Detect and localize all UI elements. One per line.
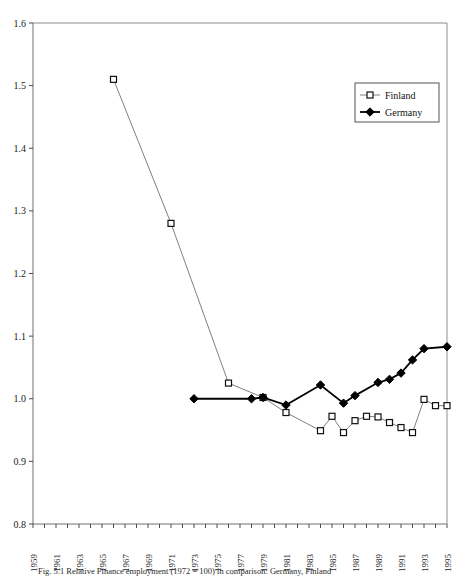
data-point-marker: [433, 403, 439, 409]
data-point-marker: [444, 403, 450, 409]
y-axis-tick-label: 1.1: [14, 331, 27, 342]
data-point-marker: [318, 428, 324, 434]
x-axis-ticks: 1959196119631965196719691971197319751977…: [29, 524, 453, 572]
y-axis-tick-label: 1.3: [14, 205, 27, 216]
data-point-marker: [341, 430, 347, 436]
data-point-marker: [375, 414, 381, 420]
data-point-marker: [282, 401, 290, 409]
chart-figure: 1.61.51.41.31.21.11.00.90.8 195919611963…: [0, 0, 465, 577]
figure-caption-text: Fig. 5.1 Relative Finance employment (19…: [38, 566, 332, 576]
data-point-marker: [421, 396, 427, 402]
data-point-marker: [374, 378, 382, 386]
y-axis-tick-label: 0.9: [14, 456, 27, 467]
series-line: [194, 347, 447, 405]
data-point-marker: [283, 410, 289, 416]
data-point-marker: [410, 430, 416, 436]
y-axis-tick-label: 1.6: [14, 18, 27, 29]
figure-caption: Fig. 5.1 Relative Finance employment (19…: [38, 566, 332, 576]
chart-legend: FinlandGermany: [355, 83, 439, 122]
x-axis-tick-label: 1991: [397, 554, 407, 572]
legend-item-germany: Germany: [360, 107, 422, 118]
legend-item-label: Germany: [385, 107, 422, 118]
series-finland: [111, 76, 451, 435]
y-axis-ticks: 1.61.51.41.31.21.11.00.90.8: [14, 18, 34, 530]
y-axis-tick-label: 1.0: [14, 393, 27, 404]
x-axis-tick-label: 1993: [420, 554, 430, 573]
data-point-marker: [247, 395, 255, 403]
line-chart-canvas: 1.61.51.41.31.21.11.00.90.8 195919611963…: [0, 0, 465, 577]
data-point-marker: [190, 395, 198, 403]
data-point-marker: [387, 420, 393, 426]
legend-item-label: Finland: [385, 90, 416, 101]
data-point-marker: [111, 76, 117, 82]
y-axis-tick-label: 1.2: [14, 268, 27, 279]
data-point-marker: [398, 425, 404, 431]
x-axis-tick-label: 1987: [351, 554, 361, 573]
data-point-marker: [168, 220, 174, 226]
series-germany: [190, 343, 451, 410]
data-point-marker: [443, 343, 451, 351]
x-axis-tick-label: 1989: [374, 554, 384, 573]
series-line: [114, 79, 448, 432]
data-series-group: [111, 76, 452, 435]
data-point-marker: [226, 380, 232, 386]
y-axis-tick-label: 1.5: [14, 80, 27, 91]
data-point-marker: [367, 92, 373, 98]
y-axis-tick-label: 1.4: [14, 143, 27, 154]
y-axis-tick-label: 0.8: [14, 519, 27, 530]
x-axis-tick-label: 1995: [443, 554, 453, 573]
data-point-marker: [364, 413, 370, 419]
data-point-marker: [385, 375, 393, 383]
data-point-marker: [352, 418, 358, 424]
x-axis-tick-label: 1959: [29, 554, 39, 573]
data-point-marker: [329, 413, 335, 419]
